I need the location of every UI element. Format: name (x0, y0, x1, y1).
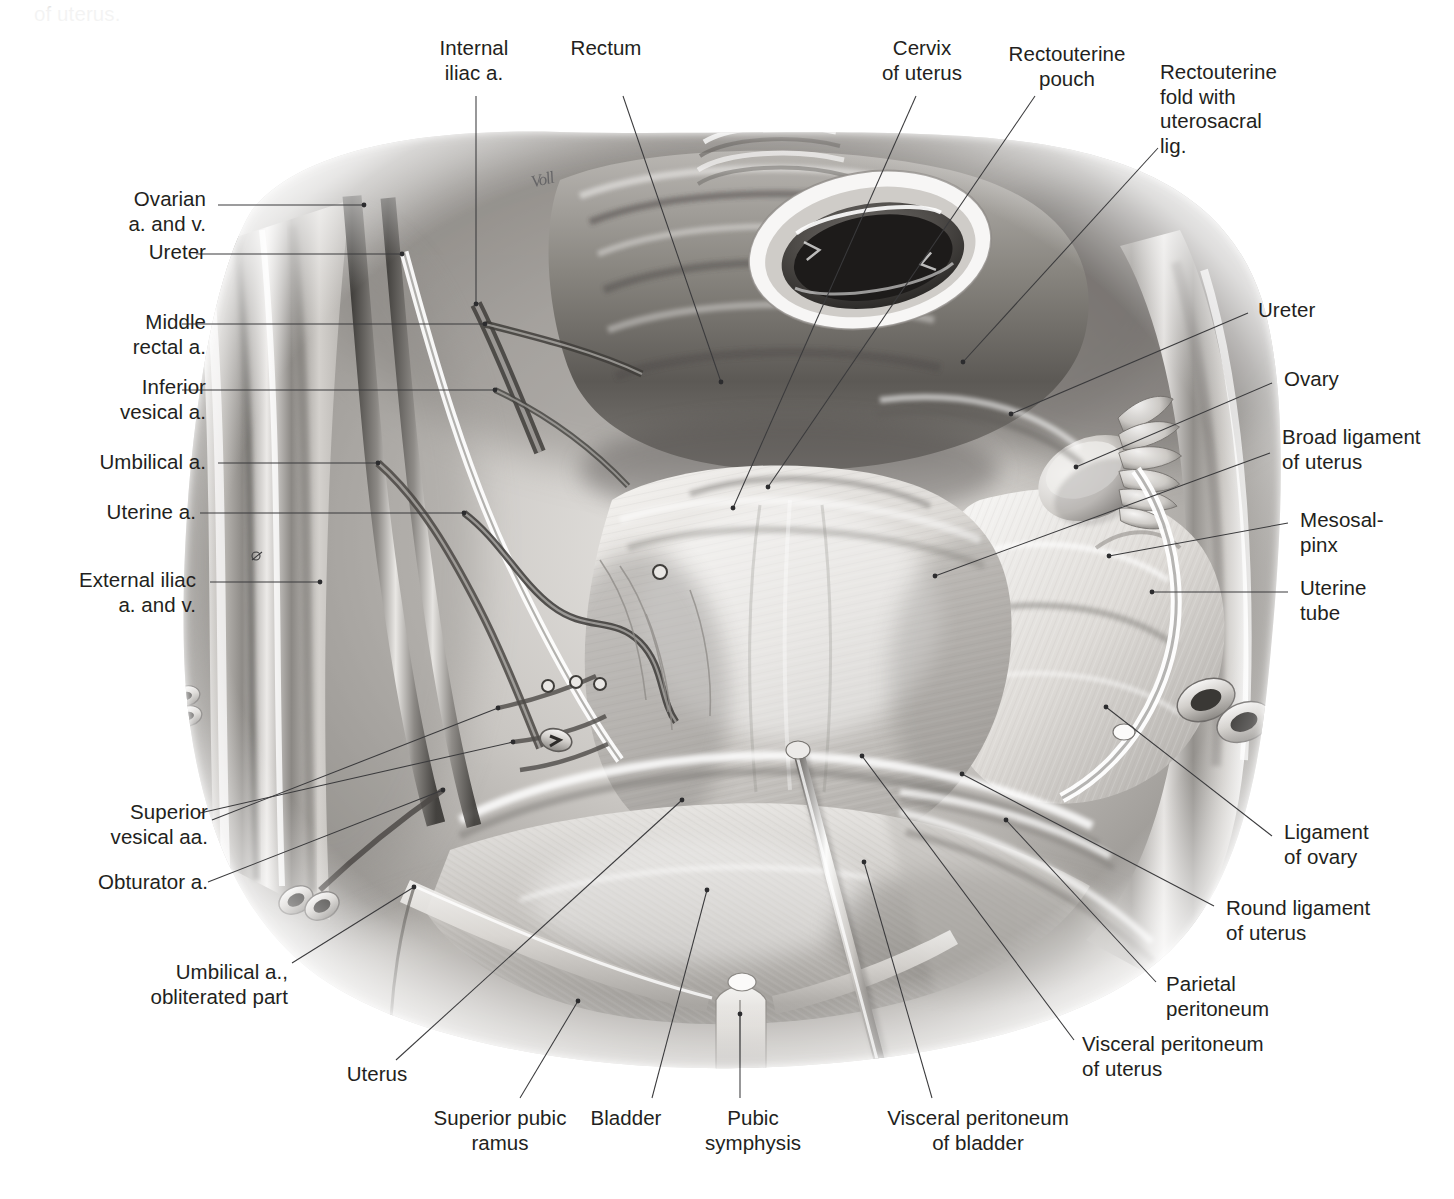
label-rectouterine-pouch: Rectouterine pouch (992, 42, 1142, 91)
label-internal-iliac-a: Internal iliac a. (404, 36, 544, 85)
label-visceral-peritoneum-uterus: Visceral peritoneum of uterus (1082, 1032, 1332, 1081)
label-mesosalpinx: Mesosal- pinx (1300, 508, 1450, 557)
label-umbilical-a: Umbilical a. (26, 450, 206, 475)
illustration-page: pelvis, viewed from above; bladder. Peri… (0, 0, 1454, 1199)
label-uterus: Uterus (312, 1062, 442, 1087)
label-middle-rectal-a: Middle rectal a. (46, 310, 206, 359)
label-rectum: Rectum (536, 36, 676, 61)
label-uterine-a: Uterine a. (26, 500, 196, 525)
label-rectouterine-fold: Rectouterine fold with uterosacral lig. (1160, 60, 1310, 158)
label-ureter-right: Ureter (1258, 298, 1448, 323)
label-broad-ligament-of-uterus: Broad ligament of uterus (1282, 425, 1454, 474)
label-external-iliac-a-and-v: External iliac a. and v. (14, 568, 196, 617)
label-round-ligament-of-uterus: Round ligament of uterus (1226, 896, 1452, 945)
label-superior-vesical-aa: Superior vesical aa. (24, 800, 208, 849)
label-ovary: Ovary (1284, 367, 1449, 392)
label-pubic-symphysis: Pubic symphysis (672, 1106, 834, 1155)
label-cervix-of-uterus: Cervix of uterus (852, 36, 992, 85)
label-obturator-a: Obturator a. (24, 870, 208, 895)
label-parietal-peritoneum: Parietal peritoneum (1166, 972, 1356, 1021)
label-umbilical-a-obliterated: Umbilical a., obliterated part (60, 960, 288, 1009)
label-ligament-of-ovary: Ligament of ovary (1284, 820, 1452, 869)
label-inferior-vesical-a: Inferior vesical a. (46, 375, 206, 424)
label-ovarian-a-and-v: Ovarian a. and v. (46, 187, 206, 236)
label-ureter-left: Ureter (46, 240, 206, 265)
label-uterine-tube: Uterine tube (1300, 576, 1450, 625)
label-visceral-peritoneum-bladder: Visceral peritoneum of bladder (852, 1106, 1104, 1155)
